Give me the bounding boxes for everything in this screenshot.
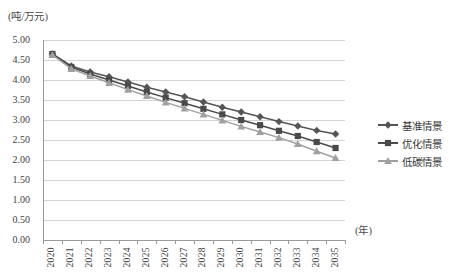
y-tick-label: 0.00 bbox=[13, 235, 31, 245]
gridline bbox=[43, 40, 345, 41]
data-point-triangle bbox=[86, 72, 94, 79]
series-2 bbox=[49, 51, 338, 151]
data-point-square bbox=[276, 128, 282, 134]
data-point-square bbox=[295, 133, 301, 139]
data-point-diamond bbox=[68, 62, 75, 69]
legend-item-3[interactable]: 低碳情景 bbox=[378, 152, 448, 170]
data-point-triangle bbox=[49, 51, 57, 58]
x-tick-label: 2026 bbox=[161, 247, 171, 268]
x-tick-mark bbox=[345, 240, 346, 244]
data-point-square bbox=[49, 51, 55, 57]
x-tick-mark bbox=[137, 240, 138, 244]
data-point-triangle bbox=[294, 140, 302, 147]
x-tick-label: 2025 bbox=[142, 247, 152, 268]
y-tick-label: 1.00 bbox=[13, 195, 31, 205]
data-point-square bbox=[200, 106, 206, 112]
data-point-diamond bbox=[219, 104, 226, 111]
x-tick-mark bbox=[62, 240, 63, 244]
data-point-diamond bbox=[237, 108, 244, 115]
gridline bbox=[43, 160, 345, 161]
x-tick-mark bbox=[119, 240, 120, 244]
data-point-diamond bbox=[384, 121, 391, 128]
x-tick-label: 2033 bbox=[293, 247, 303, 268]
gridline bbox=[43, 60, 345, 61]
x-tick-mark bbox=[251, 240, 252, 244]
data-point-triangle bbox=[200, 111, 208, 118]
data-point-square bbox=[181, 100, 187, 106]
legend-label: 基准情景 bbox=[402, 118, 442, 133]
x-tick-label: 2022 bbox=[85, 247, 95, 268]
x-tick-mark bbox=[156, 240, 157, 244]
gridline bbox=[43, 220, 345, 221]
x-tick-mark bbox=[307, 240, 308, 244]
series-3 bbox=[49, 51, 340, 161]
x-tick-label: 2032 bbox=[274, 247, 284, 268]
data-point-triangle bbox=[181, 105, 189, 112]
legend-swatch bbox=[378, 137, 398, 149]
x-tick-mark bbox=[326, 240, 327, 244]
data-point-diamond bbox=[294, 122, 301, 129]
data-point-square bbox=[257, 122, 263, 128]
series-line bbox=[52, 54, 335, 134]
gridline bbox=[43, 120, 345, 121]
legend-item-2[interactable]: 优化情景 bbox=[378, 134, 448, 152]
y-tick-label: 3.00 bbox=[13, 115, 31, 125]
x-tick-label: 2028 bbox=[198, 247, 208, 268]
y-tick-label: 2.00 bbox=[13, 155, 31, 165]
legend-swatch bbox=[378, 155, 398, 167]
data-point-diamond bbox=[49, 50, 56, 57]
data-point-triangle bbox=[67, 65, 75, 72]
data-point-triangle bbox=[384, 157, 392, 164]
legend-marker-diamond-icon bbox=[382, 119, 394, 131]
data-point-diamond bbox=[313, 127, 320, 134]
data-point-diamond bbox=[86, 68, 93, 75]
x-tick-mark bbox=[81, 240, 82, 244]
x-tick-label: 2024 bbox=[123, 247, 133, 268]
x-tick-mark bbox=[288, 240, 289, 244]
gridline bbox=[43, 80, 345, 81]
x-tick-mark bbox=[213, 240, 214, 244]
x-tick-label: 2027 bbox=[180, 247, 190, 268]
x-tick-label: 2021 bbox=[66, 247, 76, 268]
chart-legend: 基准情景优化情景低碳情景 bbox=[378, 116, 448, 170]
x-tick-label: 2030 bbox=[236, 247, 246, 268]
legend-item-1[interactable]: 基准情景 bbox=[378, 116, 448, 134]
data-point-diamond bbox=[143, 84, 150, 91]
data-point-square bbox=[332, 145, 338, 151]
x-tick-label: 2029 bbox=[217, 247, 227, 268]
data-point-triangle bbox=[237, 123, 245, 130]
series-1 bbox=[49, 50, 340, 137]
gridline bbox=[43, 200, 345, 201]
data-point-diamond bbox=[275, 118, 282, 125]
legend-marker-square-icon bbox=[382, 137, 394, 149]
gridline bbox=[43, 140, 345, 141]
x-tick-mark bbox=[43, 240, 44, 244]
data-point-square bbox=[87, 71, 93, 77]
data-point-square bbox=[144, 89, 150, 95]
legend-label: 低碳情景 bbox=[402, 154, 442, 169]
x-tick-mark bbox=[194, 240, 195, 244]
x-tick-mark bbox=[175, 240, 176, 244]
gridline bbox=[43, 180, 345, 181]
data-point-diamond bbox=[332, 130, 339, 137]
gridline bbox=[43, 100, 345, 101]
data-point-diamond bbox=[162, 88, 169, 95]
x-tick-mark bbox=[100, 240, 101, 244]
x-tick-label: 2035 bbox=[331, 247, 341, 268]
data-point-square bbox=[68, 64, 74, 70]
y-tick-label: 4.50 bbox=[13, 55, 31, 65]
x-tick-label: 2020 bbox=[47, 247, 57, 268]
data-point-square bbox=[125, 83, 131, 89]
data-point-triangle bbox=[143, 92, 151, 99]
chart-container: (吨/万元) (年) 5.004.504.003.503.002.502.001… bbox=[0, 0, 449, 279]
y-tick-label: 3.50 bbox=[13, 95, 31, 105]
data-point-triangle bbox=[313, 147, 321, 154]
y-tick-label: 0.50 bbox=[13, 215, 31, 225]
y-tick-label: 2.50 bbox=[13, 135, 31, 145]
y-tick-label: 1.50 bbox=[13, 175, 31, 185]
legend-swatch bbox=[378, 119, 398, 131]
x-tick-label: 2034 bbox=[312, 247, 322, 268]
legend-label: 优化情景 bbox=[402, 136, 442, 151]
x-tick-label: 2031 bbox=[255, 247, 265, 268]
data-point-triangle bbox=[256, 128, 264, 135]
